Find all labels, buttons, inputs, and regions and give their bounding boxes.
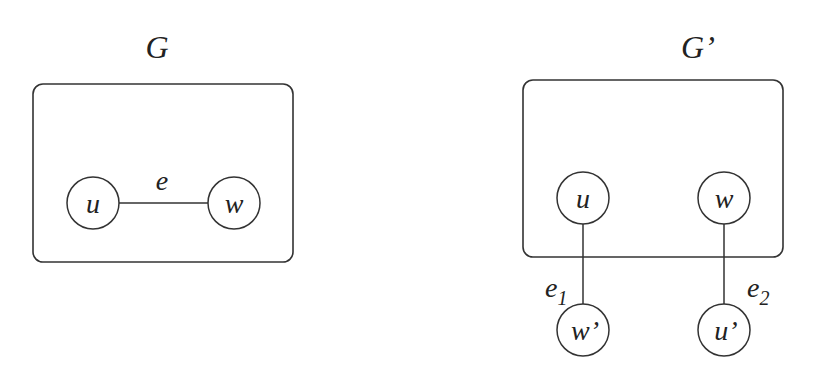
edge-e-label: e <box>156 165 168 196</box>
diagram-canvas: G e u w G’ e1 e2 u w w’ u’ <box>0 0 813 374</box>
node-u-label: u <box>576 183 590 214</box>
edge-e1-label: e1 <box>545 272 567 309</box>
node-u-label: u <box>86 188 100 219</box>
node-u-prime-label: u’ <box>714 315 737 346</box>
node-w-prime-label: w’ <box>571 315 599 346</box>
graph-g-prime: G’ e1 e2 u w w’ u’ <box>523 29 783 356</box>
graph-g: G e u w <box>33 29 293 262</box>
node-w-label: w <box>225 188 244 219</box>
graph-g-prime-boundary <box>523 80 783 257</box>
graph-g-title: G <box>145 29 168 65</box>
edge-e2-label: e2 <box>747 272 769 309</box>
node-w-label: w <box>715 183 734 214</box>
graph-g-prime-title: G’ <box>681 29 715 65</box>
